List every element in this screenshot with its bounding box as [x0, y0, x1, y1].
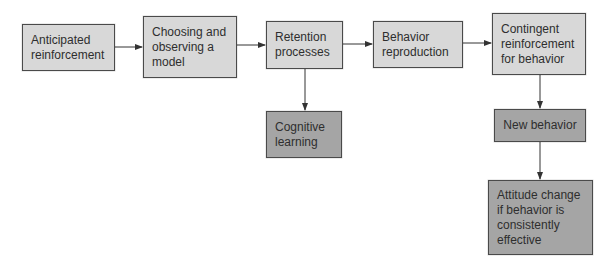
node-anticipated-reinforcement: Anticipated reinforcement: [22, 24, 115, 71]
node-contingent-reinforcement: Contingent reinforcement for behavior: [492, 13, 586, 75]
node-new-behavior: New behavior: [494, 109, 586, 142]
node-text-line: Attitude change: [497, 188, 584, 203]
node-text-line: effective: [497, 233, 584, 248]
node-text-line: learning: [275, 135, 333, 150]
node-text-line: if behavior is: [497, 203, 584, 218]
node-text-line: processes: [275, 45, 334, 60]
node-text-line: reinforcement: [31, 48, 106, 63]
node-text-line: for behavior: [501, 52, 577, 67]
node-text-line: Cognitive: [275, 120, 333, 135]
node-retention-processes: Retention processes: [266, 21, 343, 69]
node-text-line: model: [152, 55, 228, 70]
node-text-line: reproduction: [382, 45, 454, 60]
node-text-line: New behavior: [503, 118, 576, 133]
node-behavior-reproduction: Behavior reproduction: [373, 21, 463, 68]
node-text-line: observing a: [152, 40, 228, 55]
node-text-line: Retention: [275, 30, 334, 45]
node-text-line: reinforcement: [501, 37, 577, 52]
node-text-line: Contingent: [501, 22, 577, 37]
node-text-line: Choosing and: [152, 25, 228, 40]
node-attitude-change: Attitude change if behavior is consisten…: [488, 180, 593, 255]
node-text-line: Behavior: [382, 30, 454, 45]
node-text-line: Anticipated: [31, 33, 106, 48]
node-choosing-model: Choosing and observing a model: [143, 16, 237, 78]
node-cognitive-learning: Cognitive learning: [266, 111, 342, 158]
node-text-line: consistently: [497, 218, 584, 233]
